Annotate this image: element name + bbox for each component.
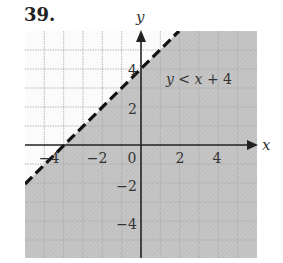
x-tick-label: 0 — [128, 150, 137, 166]
inequality-label: y < x + 4 — [165, 71, 232, 87]
inequality-graph: x y −4 −2 0 2 4 −4 −2 2 4 y < x + 4 — [0, 0, 283, 263]
x-tick-label: 2 — [176, 150, 185, 166]
x-tick-label: 4 — [213, 150, 222, 166]
x-tick-label: −4 — [39, 150, 60, 166]
y-tick-label: −2 — [116, 178, 137, 194]
y-tick-label: −4 — [116, 216, 137, 232]
y-tick-label: 4 — [128, 62, 137, 78]
x-tick-label: −2 — [87, 150, 108, 166]
y-axis-label: y — [135, 8, 145, 26]
x-axis-label: x — [262, 136, 271, 154]
y-tick-label: 2 — [128, 101, 137, 117]
